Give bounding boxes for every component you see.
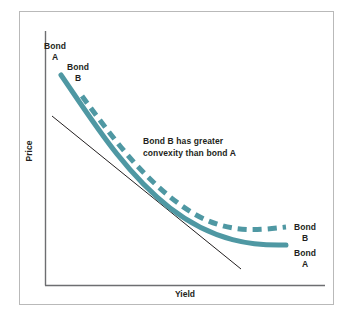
series-label-bond-b-right: Bond B: [294, 222, 316, 243]
series-label-bond-a-right: Bond A: [294, 248, 316, 269]
convexity-annotation: Bond B has greater convexity than bond A: [143, 136, 236, 159]
convexity-chart-figure: Bond A Bond B Bond B Bond A Bond B has g…: [0, 0, 349, 317]
y-axis-label: Price: [24, 121, 34, 181]
bond-b-curve: [82, 96, 286, 230]
bond-a-curve: [61, 75, 286, 245]
series-label-bond-b-top: Bond B: [67, 62, 89, 83]
series-label-bond-a-top: Bond A: [44, 41, 66, 62]
x-axis-label: Yield: [125, 289, 245, 299]
